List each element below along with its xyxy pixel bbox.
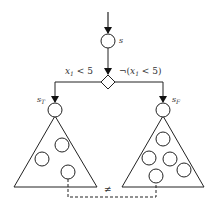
true-subtree-node: [35, 152, 49, 166]
false-condition-label: ¬(x1 < 5): [119, 67, 161, 77]
true-subtree-node-leaf: [61, 165, 75, 179]
flow-diagram: [0, 0, 213, 206]
true-condition-label: x1 < 5: [65, 67, 93, 77]
true-subtree-root-label: sT: [37, 96, 45, 105]
true-subtree-triangle: [14, 116, 97, 187]
false-subtree-node-leaf: [149, 169, 163, 183]
edge-true-branch: [55, 82, 101, 102]
decision-diamond: [101, 75, 115, 89]
diagram-canvas: s x1 < 5 ¬(x1 < 5) sT sF ≠: [0, 0, 213, 206]
start-node: [101, 34, 115, 48]
false-subtree-node: [142, 151, 156, 165]
false-subtree-root-label: sF: [172, 96, 180, 105]
start-node-label: s: [119, 37, 123, 45]
true-subtree-node: [55, 138, 69, 152]
true-subtree-root: [48, 103, 62, 117]
false-subtree-root: [156, 103, 170, 117]
edge-false-branch: [115, 82, 163, 102]
false-subtree-node: [177, 163, 191, 177]
inequality-symbol: ≠: [104, 185, 112, 194]
inequality-connector: [68, 179, 156, 197]
false-subtree-node: [163, 152, 177, 166]
false-subtree-node: [156, 132, 170, 146]
